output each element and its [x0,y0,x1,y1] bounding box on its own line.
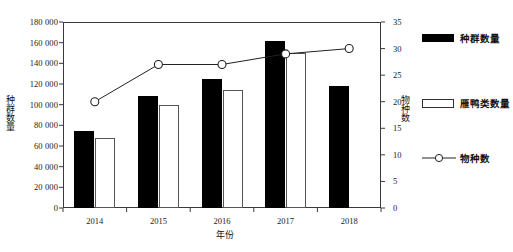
legend-label-species-count: 物种数 [460,151,490,165]
legend-label-anatidae: 雁鸭类数量 [460,96,510,110]
legend-label-population: 种群数量 [460,31,500,45]
legend-swatch-anatidae [422,99,454,108]
legend-swatch-population [422,34,454,42]
chart-figure: 种群数量 物种数 年份 020 00040 00060 00080 000100… [0,0,513,252]
legend-marker-species-count [422,152,458,164]
chart-legend: 种群数量 雁鸭类数量 物种数 [420,0,513,252]
